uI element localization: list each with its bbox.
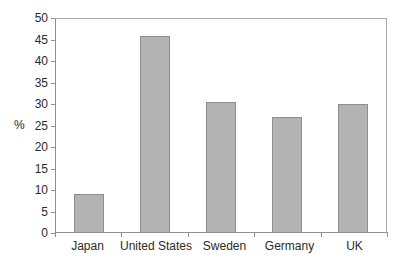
y-tick-label: 30 <box>35 98 48 110</box>
y-tick-label: 35 <box>35 77 48 89</box>
y-tick-mark <box>51 212 55 213</box>
bar-united-states <box>140 36 170 232</box>
x-tick-mark <box>387 232 388 237</box>
y-tick-mark <box>51 147 55 148</box>
y-tick-mark <box>51 61 55 62</box>
y-tick-label: 10 <box>35 184 48 196</box>
y-tick-label: 15 <box>35 163 48 175</box>
x-tick-mark <box>121 232 122 237</box>
y-tick-label: 25 <box>35 120 48 132</box>
bar-germany <box>272 117 302 232</box>
bar-cell <box>56 19 122 232</box>
bar-cell <box>320 19 386 232</box>
y-tick-mark <box>51 40 55 41</box>
bar-chart: % 05101520253035404550 JapanUnited State… <box>0 0 403 267</box>
bar-cell <box>188 19 254 232</box>
y-tick-label: 45 <box>35 34 48 46</box>
bar-cell <box>122 19 188 232</box>
y-tick-mark <box>51 18 55 19</box>
x-tick-label: Sweden <box>192 240 257 252</box>
x-tick-mark <box>55 232 56 237</box>
bar-uk <box>338 104 368 232</box>
y-tick-mark <box>51 126 55 127</box>
y-tick-mark <box>51 169 55 170</box>
y-tick-label: 50 <box>35 12 48 24</box>
y-tick-mark <box>51 83 55 84</box>
x-tick-label: Germany <box>257 240 322 252</box>
y-tick-mark <box>51 190 55 191</box>
x-tick-mark <box>321 232 322 237</box>
x-tick-label: Japan <box>55 240 120 252</box>
bar-sweden <box>206 102 236 232</box>
bars <box>56 19 386 232</box>
x-axis: JapanUnited StatesSwedenGermanyUK <box>55 240 387 252</box>
x-tick-mark <box>188 232 189 237</box>
y-tick-label: 40 <box>35 55 48 67</box>
x-tick-mark <box>254 232 255 237</box>
y-tick-label: 20 <box>35 141 48 153</box>
bar-cell <box>254 19 320 232</box>
y-axis: 05101520253035404550 <box>0 18 50 233</box>
x-tick-label: United States <box>120 240 192 252</box>
bar-japan <box>74 194 104 232</box>
y-tick-mark <box>51 104 55 105</box>
plot-area <box>55 18 387 233</box>
x-tick-label: UK <box>322 240 387 252</box>
y-tick-label: 0 <box>41 227 48 239</box>
y-tick-label: 5 <box>41 206 48 218</box>
